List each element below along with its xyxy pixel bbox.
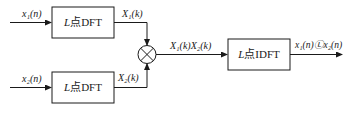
signal-label-X1: X₁(k) <box>122 9 143 19</box>
block-text: 点DFT <box>70 81 102 93</box>
dft-block-2-label: L点DFT <box>52 82 114 93</box>
signal-label-X2: X₂(k) <box>118 73 139 83</box>
input-label-x1: x₁(n) <box>22 9 42 19</box>
dft-block-1-label: L点DFT <box>52 17 114 28</box>
block-text: 点DFT <box>70 16 102 28</box>
idft-block-label: L点IDFT <box>228 49 290 60</box>
block-text: 点IDFT <box>244 48 279 60</box>
signal-label-output: x₁(n)Ⓛx₂(n) <box>295 41 342 51</box>
input-label-x2: x₂(n) <box>22 74 42 84</box>
signal-label-product: X₁(k)X₂(k) <box>170 41 211 51</box>
